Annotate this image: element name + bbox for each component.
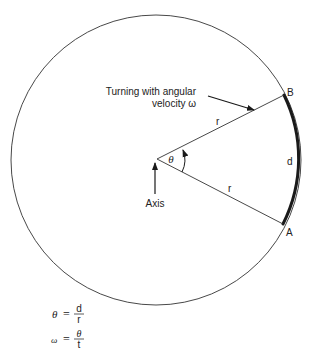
pointer-label-line2: velocity ω bbox=[152, 98, 196, 109]
angular-velocity-diagram: Turning with angular velocity ω B A d r … bbox=[0, 0, 311, 363]
equation-omega-denominator: t bbox=[78, 339, 81, 350]
equation-omega-equals: = bbox=[63, 332, 70, 346]
equation-theta-equals: = bbox=[63, 307, 70, 321]
equation-omega: ω = θ t bbox=[51, 328, 84, 350]
angle-theta-label: θ bbox=[168, 153, 174, 165]
radius-label-upper: r bbox=[216, 116, 220, 127]
point-a-label: A bbox=[286, 227, 293, 238]
equation-omega-lhs: ω bbox=[51, 335, 57, 345]
velocity-pointer-arrow bbox=[208, 96, 254, 110]
equation-theta-denominator: r bbox=[77, 314, 81, 325]
equation-theta-numerator: d bbox=[76, 303, 82, 314]
pointer-label-line1: Turning with angular bbox=[106, 86, 197, 97]
point-b-label: B bbox=[287, 87, 294, 98]
axis-label: Axis bbox=[146, 198, 165, 209]
equation-theta: θ = d r bbox=[52, 303, 84, 325]
equation-theta-lhs: θ bbox=[52, 308, 58, 320]
angle-arc-icon bbox=[182, 150, 185, 172]
radius-label-lower: r bbox=[228, 183, 232, 194]
arc-length-label: d bbox=[287, 156, 293, 167]
radius-line-lower bbox=[157, 159, 283, 224]
equation-omega-numerator: θ bbox=[77, 328, 82, 339]
disk-circle bbox=[11, 15, 301, 305]
